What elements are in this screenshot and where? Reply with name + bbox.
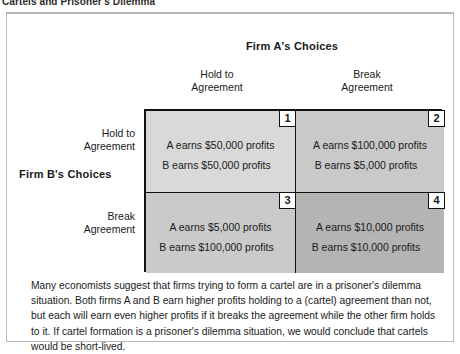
payoff-cell-1-firm-b: B earns $50,000 profits [146,159,295,171]
figure-caption: Cartels and Prisoner's Dilemma [0,0,460,9]
figure-caption-text: Cartels and Prisoner's Dilemma [2,0,155,7]
column-header-break-line1: Break [292,68,442,81]
row-header-break-agreement: Break Agreement [35,210,135,236]
payoff-cell-2: 2 A earns $100,000 profits B earns $5,00… [295,111,444,192]
row-header-hold-line2: Agreement [35,140,135,153]
quadrant-badge-1: 1 [279,110,296,127]
row-header-break-line1: Break [35,210,135,223]
row-header-hold-to-agreement: Hold to Agreement [35,127,135,153]
payoff-cell-2-firm-a: A earns $100,000 profits [296,139,444,151]
payoff-cell-3-firm-a: A earns $5,000 profits [146,221,295,233]
column-axis-title: Firm A's Choices [142,40,442,52]
payoff-cell-4: 4 A earns $10,000 profits B earns $10,00… [295,192,444,273]
payoff-cell-3-firm-b: B earns $100,000 profits [146,241,295,253]
payoff-cell-1: 1 A earns $50,000 profits B earns $50,00… [146,111,295,192]
quadrant-badge-3: 3 [279,192,296,209]
column-header-hold-to-agreement: Hold to Agreement [142,68,292,94]
row-axis-title: Firm B's Choices [19,168,137,180]
explanation-paragraph: Many economists suggest that firms tryin… [31,278,439,354]
row-header-break-line2: Agreement [35,223,135,236]
column-header-hold-line2: Agreement [142,81,292,94]
payoff-cell-4-firm-b: B earns $10,000 profits [296,241,444,253]
payoff-matrix: 1 A earns $50,000 profits B earns $50,00… [144,109,442,272]
column-header-break-agreement: Break Agreement [292,68,442,94]
payoff-cell-1-firm-a: A earns $50,000 profits [146,139,295,151]
quadrant-badge-4: 4 [428,192,445,209]
row-header-hold-line1: Hold to [35,127,135,140]
payoff-cell-2-firm-b: B earns $5,000 profits [296,159,444,171]
payoff-cell-3: 3 A earns $5,000 profits B earns $100,00… [146,192,295,273]
column-header-hold-line1: Hold to [142,68,292,81]
figure-frame: Firm A's Choices Hold to Agreement Break… [6,12,454,342]
payoff-cell-4-firm-a: A earns $10,000 profits [296,221,444,233]
column-header-break-line2: Agreement [292,81,442,94]
quadrant-badge-2: 2 [428,110,445,127]
